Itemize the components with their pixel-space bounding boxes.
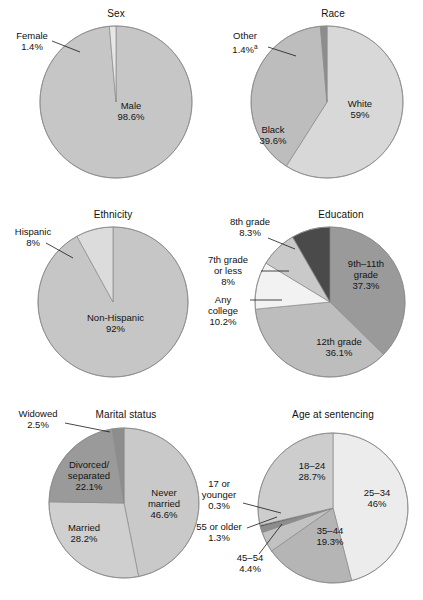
slice-value-35-44: 19.3% — [317, 536, 344, 547]
slice-label-17-younger: 17 or younger 0.3% — [190, 478, 248, 511]
slice-label-18-24-text: 18–24 — [299, 460, 325, 471]
slice-value-45-54: 4.4% — [239, 563, 261, 574]
slice-label-55-older-text: 55 or older — [196, 521, 241, 532]
pie-chart-figure: Sex Male 98.6% Female 1.4% Race White 59… — [0, 0, 423, 600]
slice-label-25-34: 25–34 46% — [347, 487, 407, 509]
slice-label-18-24: 18–24 28.7% — [282, 460, 342, 482]
slice-label-35-44: 35–44 19.3% — [300, 525, 360, 547]
slice-label-25-34-text: 25–34 — [364, 487, 390, 498]
slice-label-45-54-text: 45–54 — [237, 552, 263, 563]
slice-value-18-24: 28.7% — [299, 471, 326, 482]
slice-label-17-line2: younger — [202, 489, 236, 500]
slice-value-25-34: 46% — [367, 498, 386, 509]
slice-label-17-line1: 17 or — [208, 478, 230, 489]
slice-label-55-older: 55 or older 1.3% — [186, 521, 252, 543]
slice-value-17-younger: 0.3% — [208, 500, 230, 511]
slice-label-45-54: 45–54 4.4% — [219, 552, 281, 574]
slice-label-35-44-text: 35–44 — [317, 525, 343, 536]
slice-value-55-older: 1.3% — [208, 532, 230, 543]
